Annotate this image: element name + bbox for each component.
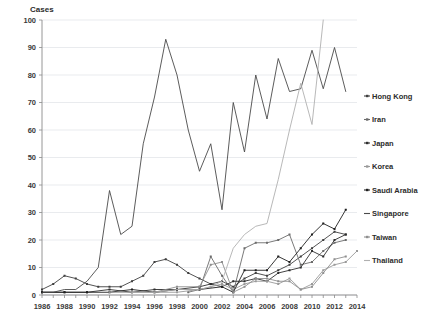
data-point [255, 269, 257, 271]
legend-marker [366, 236, 368, 238]
y-tick-label: 40 [28, 181, 36, 190]
data-point [322, 239, 324, 241]
data-point [311, 261, 313, 263]
data-point [120, 286, 122, 288]
data-point [232, 286, 234, 288]
data-point [176, 264, 178, 266]
legend-label: Korea [372, 162, 394, 171]
data-point [75, 278, 77, 280]
legend-marker [366, 165, 368, 167]
data-point [356, 250, 358, 252]
data-point [221, 275, 223, 277]
series-line [42, 39, 346, 292]
x-tick-label: 1996 [146, 302, 163, 311]
y-axis-title: Cases [30, 5, 54, 14]
data-point [277, 272, 279, 274]
legend-marker [366, 142, 368, 144]
data-point [289, 278, 291, 280]
data-point [322, 223, 324, 225]
x-tick-label: 2000 [191, 302, 208, 311]
data-point [311, 283, 313, 285]
data-point [266, 269, 268, 271]
data-point [199, 286, 201, 288]
data-point [345, 261, 347, 263]
data-point [334, 242, 336, 244]
legend-item-korea[interactable]: Korea [364, 162, 394, 171]
legend-item-thailand[interactable]: Thailand [364, 256, 403, 265]
x-tick-label: 2010 [304, 302, 321, 311]
legend-item-taiwan[interactable]: Taiwan [364, 233, 397, 242]
data-point [289, 261, 291, 263]
x-tick-label: 2012 [326, 302, 343, 311]
data-point [221, 283, 223, 285]
data-point [334, 231, 336, 233]
data-point [210, 264, 212, 266]
data-point [41, 289, 43, 291]
y-tick-label: 30 [28, 208, 36, 217]
y-tick-label: 90 [28, 43, 36, 52]
data-point [277, 280, 279, 282]
legend-marker [366, 95, 368, 97]
data-point [187, 272, 189, 274]
data-point [244, 283, 246, 285]
data-point [266, 242, 268, 244]
data-point [334, 258, 336, 260]
series-singapore [42, 39, 346, 292]
legend-label: Singapore [372, 209, 409, 218]
data-point [165, 258, 167, 260]
y-tick-label: 20 [28, 236, 36, 245]
legend-label: Saudi Arabia [372, 186, 418, 195]
data-point [86, 291, 88, 293]
x-tick-label: 1990 [79, 302, 96, 311]
data-point [64, 275, 66, 277]
legend-item-singapore[interactable]: Singapore [364, 209, 409, 218]
y-tick-label: 80 [28, 71, 36, 80]
data-point [311, 250, 313, 252]
data-point [311, 247, 313, 249]
data-point [244, 247, 246, 249]
data-point [277, 239, 279, 241]
line-chart: 0102030405060708090100 19861988199019921… [0, 0, 427, 324]
y-tick-label: 50 [28, 153, 36, 162]
data-point [334, 228, 336, 230]
legend-label: Iran [372, 115, 386, 124]
data-point [266, 280, 268, 282]
legend-label: Thailand [372, 256, 403, 265]
legend-label: Taiwan [372, 233, 397, 242]
data-point [311, 286, 313, 288]
y-tick-label: 60 [28, 126, 36, 135]
data-point [345, 256, 347, 258]
data-point [266, 278, 268, 280]
x-tick-label: 1986 [34, 302, 51, 311]
legend-item-iran[interactable]: Iran [364, 115, 386, 124]
legend-item-hong-kong[interactable]: Hong Kong [364, 92, 413, 101]
legend-item-japan[interactable]: Japan [364, 139, 394, 148]
legend-item-saudi-arabia[interactable]: Saudi Arabia [364, 186, 418, 195]
y-tick-label: 0 [32, 291, 36, 300]
y-tick-label: 10 [28, 263, 36, 272]
legend-label: Hong Kong [372, 92, 413, 101]
legend-marker [366, 118, 368, 120]
legend-label: Japan [372, 139, 394, 148]
data-point [176, 286, 178, 288]
data-point [232, 291, 234, 293]
data-point [322, 272, 324, 274]
data-point [345, 239, 347, 241]
data-point [221, 261, 223, 263]
x-tick-label: 2002 [214, 302, 231, 311]
data-point [109, 291, 111, 293]
chart-canvas: 0102030405060708090100 19861988199019921… [0, 0, 427, 324]
data-point [244, 278, 246, 280]
axes [39, 20, 357, 298]
data-point [300, 247, 302, 249]
data-point [277, 256, 279, 258]
data-point [289, 264, 291, 266]
data-point [300, 256, 302, 258]
data-point [300, 264, 302, 266]
legend-marker [366, 189, 368, 191]
x-tick-label: 2004 [236, 302, 254, 311]
x-tick-label: 2008 [281, 302, 298, 311]
data-point [255, 278, 257, 280]
x-axis-tick-labels: 1986198819901992199419961998200020022004… [34, 302, 367, 311]
data-point [154, 261, 156, 263]
